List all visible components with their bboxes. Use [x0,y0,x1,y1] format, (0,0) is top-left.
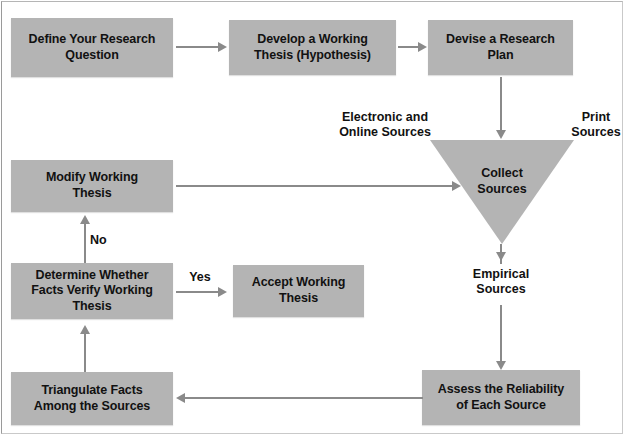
arrowhead-empirical-to-assess-icon [496,361,506,370]
arrowhead-devise-to-collect-icon [496,130,506,139]
arrowhead-assess-to-triangulate-icon [176,393,185,403]
node-accept-working-thesis-label: Accept Working Thesis [252,275,346,306]
flowchart-canvas: Define Your Research Question Develop a … [0,0,630,438]
node-devise-research-plan-label: Devise a Research Plan [446,32,555,63]
node-develop-working-thesis[interactable]: Develop a Working Thesis (Hypothesis) [229,20,396,75]
edge-label-no: No [90,233,120,247]
node-collect-sources-label: Collect Sources [477,140,526,197]
node-modify-working-thesis[interactable]: Modify Working Thesis [11,160,173,212]
edge-label-yes: Yes [181,270,219,284]
arrowhead-modify-to-collect-icon [452,181,461,191]
connector-determine-to-modify [84,222,86,264]
node-determine-facts-verify-label: Determine Whether Facts Verify Working T… [31,268,152,315]
arrowhead-collect-caption-icon [496,252,506,261]
caption-print-sources: Print Sources [565,110,627,140]
arrowhead-define-to-develop-icon [218,42,227,52]
caption-empirical-sources: Empirical Sources [459,267,543,297]
node-devise-research-plan[interactable]: Devise a Research Plan [428,20,573,75]
caption-electronic-online-sources: Electronic and Online Sources [322,110,448,140]
connector-assess-to-triangulate [185,397,423,399]
arrowhead-determine-to-accept-icon [218,287,227,297]
node-develop-working-thesis-label: Develop a Working Thesis (Hypothesis) [254,32,371,63]
connector-develop-to-devise [398,46,420,48]
connector-devise-to-collect [500,77,502,131]
connector-modify-to-collect [176,185,457,187]
connector-determine-to-accept [176,291,220,293]
node-collect-sources[interactable]: Collect Sources [430,140,574,244]
node-triangulate-facts-label: Triangulate Facts Among the Sources [34,383,150,414]
node-modify-working-thesis-label: Modify Working Thesis [46,170,138,201]
node-accept-working-thesis[interactable]: Accept Working Thesis [233,265,364,317]
connector-define-to-develop [176,46,220,48]
node-triangulate-facts[interactable]: Triangulate Facts Among the Sources [11,372,173,425]
node-assess-reliability[interactable]: Assess the Reliability of Each Source [422,370,580,425]
node-define-research-question[interactable]: Define Your Research Question [11,18,173,77]
connector-triangulate-to-determine [84,332,86,373]
arrowhead-develop-to-devise-icon [418,42,427,52]
node-determine-facts-verify[interactable]: Determine Whether Facts Verify Working T… [11,263,173,319]
connector-empirical-to-assess [500,305,502,363]
node-define-research-question-label: Define Your Research Question [29,32,156,63]
arrowhead-determine-to-modify-icon [80,215,90,224]
node-assess-reliability-label: Assess the Reliability of Each Source [438,382,564,413]
arrowhead-triangulate-to-determine-icon [80,325,90,334]
